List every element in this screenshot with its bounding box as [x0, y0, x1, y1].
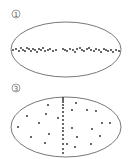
data-point	[38, 122, 40, 124]
data-point	[76, 48, 78, 50]
data-point	[118, 50, 120, 52]
data-point	[83, 50, 85, 52]
data-point	[62, 152, 64, 154]
data-point	[109, 122, 111, 124]
data-point	[62, 115, 64, 117]
data-point	[52, 50, 54, 52]
data-point	[75, 102, 77, 104]
data-point	[22, 49, 24, 51]
data-point	[62, 130, 64, 132]
data-point	[62, 99, 64, 101]
data-point	[18, 50, 20, 52]
data-point	[100, 51, 102, 53]
data-point	[71, 109, 73, 111]
data-point	[72, 49, 74, 51]
data-point	[34, 49, 36, 51]
data-point	[62, 143, 64, 145]
data-point	[36, 51, 38, 53]
data-point	[88, 47, 90, 49]
diagram-canvas: 13	[0, 0, 132, 159]
data-point	[62, 111, 64, 113]
data-point	[90, 143, 92, 145]
data-point	[20, 47, 22, 49]
data-point	[86, 48, 88, 50]
data-point	[95, 48, 97, 50]
data-point	[24, 50, 26, 52]
data-point	[17, 126, 19, 128]
data-point	[74, 51, 76, 53]
data-point	[28, 48, 30, 50]
data-point	[38, 48, 40, 50]
data-point	[110, 49, 112, 51]
data-point	[71, 127, 73, 129]
data-point	[62, 138, 64, 140]
data-point	[62, 127, 64, 129]
panel-label: 1	[14, 11, 18, 19]
data-point	[62, 123, 64, 125]
data-point	[26, 115, 28, 117]
data-point	[115, 49, 117, 51]
data-point	[30, 50, 32, 52]
ellipse-boundary	[11, 97, 121, 157]
data-point	[62, 97, 64, 99]
data-point	[64, 49, 66, 51]
data-point	[112, 51, 114, 53]
data-point	[47, 104, 49, 106]
data-point	[62, 119, 64, 121]
data-point	[44, 50, 46, 52]
data-point	[107, 50, 109, 52]
data-point	[62, 148, 64, 150]
data-point	[48, 133, 50, 135]
data-point	[99, 135, 101, 137]
data-point	[95, 110, 97, 112]
data-point	[93, 50, 95, 52]
data-point	[55, 49, 57, 51]
data-point	[49, 48, 51, 50]
data-point	[26, 47, 28, 49]
data-point	[98, 49, 100, 51]
data-point	[30, 136, 32, 138]
data-point	[32, 48, 34, 50]
data-point	[40, 49, 42, 51]
data-point	[44, 142, 46, 144]
data-point	[15, 48, 17, 50]
data-point	[62, 104, 64, 106]
data-point	[12, 49, 14, 51]
data-point	[69, 48, 71, 50]
data-point	[90, 49, 92, 51]
panel-label: 3	[14, 85, 18, 93]
data-point	[76, 136, 78, 138]
data-point	[62, 107, 64, 109]
data-point	[57, 117, 59, 119]
data-point	[45, 113, 47, 115]
data-point	[62, 101, 64, 103]
data-point	[91, 128, 93, 130]
data-point	[42, 47, 44, 49]
data-point	[79, 47, 81, 49]
data-point	[66, 50, 68, 52]
data-point	[103, 48, 105, 50]
data-point	[62, 48, 64, 50]
data-point	[66, 143, 68, 145]
data-point	[105, 49, 107, 51]
data-point	[62, 134, 64, 136]
data-point	[86, 109, 88, 111]
data-point	[74, 146, 76, 148]
data-point	[101, 122, 103, 124]
data-point	[47, 49, 49, 51]
data-point	[81, 49, 83, 51]
